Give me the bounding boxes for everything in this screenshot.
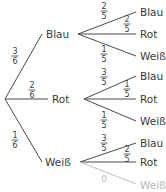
leaf-rot-rot: Rot xyxy=(140,93,157,105)
prob-blau-blau: 2 5 xyxy=(101,2,108,21)
edge-weiss-weiss xyxy=(80,162,136,184)
svg-text:5: 5 xyxy=(101,55,106,64)
leaf-weiss-rot: Rot xyxy=(140,156,157,168)
svg-text:1: 1 xyxy=(101,45,106,54)
prob-weiss-weiss: 0 xyxy=(101,174,107,184)
prob-blau-rot: 2 5 xyxy=(124,15,131,34)
probability-tree: 3 6 2 6 1 6 Blau Rot Weiß 2 5 2 5 1 5 xyxy=(0,0,166,192)
prob-weiss: 1 6 xyxy=(12,131,19,150)
leaf-weiss-blau: Blau xyxy=(140,137,163,149)
svg-text:3: 3 xyxy=(12,47,17,56)
svg-text:2: 2 xyxy=(101,2,106,11)
svg-text:0: 0 xyxy=(101,174,107,184)
svg-text:5: 5 xyxy=(101,121,106,130)
svg-text:5: 5 xyxy=(124,25,129,34)
leaf-blau-weiss: Weiß xyxy=(140,50,166,62)
leaf-blau-blau: Blau xyxy=(140,6,163,18)
prob-rot-rot: 1 5 xyxy=(124,80,131,99)
prob-rot-blau: 3 5 xyxy=(101,68,108,87)
edge-blau xyxy=(5,34,42,99)
svg-text:1: 1 xyxy=(124,80,129,89)
node-rot: Rot xyxy=(52,93,69,105)
prob-rot: 2 6 xyxy=(29,81,36,100)
svg-text:6: 6 xyxy=(12,57,17,66)
svg-text:5: 5 xyxy=(124,90,129,99)
svg-text:3: 3 xyxy=(101,68,106,77)
svg-text:2: 2 xyxy=(124,145,129,154)
leaf-weiss-weiss: Weiß xyxy=(140,179,166,191)
node-weiss: Weiß xyxy=(45,156,71,168)
edge-rot-weiss xyxy=(84,99,136,121)
svg-text:5: 5 xyxy=(101,78,106,87)
prob-blau: 3 6 xyxy=(12,47,19,66)
leaf-rot-blau: Blau xyxy=(140,70,163,82)
prob-blau-weiss: 1 5 xyxy=(101,45,108,64)
svg-text:6: 6 xyxy=(29,91,34,100)
svg-text:5: 5 xyxy=(124,155,129,164)
prob-weiss-rot: 2 5 xyxy=(124,145,131,164)
leaf-rot-weiss: Weiß xyxy=(140,115,166,127)
svg-text:1: 1 xyxy=(12,131,17,140)
edge-blau-weiss xyxy=(78,34,136,56)
prob-rot-weiss: 1 5 xyxy=(101,111,108,130)
svg-text:2: 2 xyxy=(124,15,129,24)
leaf-blau-rot: Rot xyxy=(140,28,157,40)
svg-text:5: 5 xyxy=(101,12,106,21)
node-blau: Blau xyxy=(46,28,69,40)
svg-text:6: 6 xyxy=(12,141,17,150)
svg-text:5: 5 xyxy=(101,144,106,153)
prob-weiss-blau: 3 5 xyxy=(101,134,108,153)
svg-text:2: 2 xyxy=(29,81,34,90)
edge-weiss xyxy=(5,99,42,162)
svg-text:3: 3 xyxy=(101,134,106,143)
svg-text:1: 1 xyxy=(101,111,106,120)
